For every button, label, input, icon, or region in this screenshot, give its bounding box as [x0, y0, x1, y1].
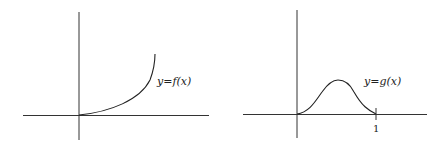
- f-curve: [79, 54, 155, 115]
- x-tick-label-1: 1: [373, 123, 379, 134]
- f-label: y=f(x): [156, 75, 191, 88]
- figure-canvas: y=f(x) 1 y=g(x): [0, 0, 441, 145]
- left-graph: y=f(x): [23, 12, 209, 140]
- g-label: y=g(x): [363, 75, 401, 88]
- right-graph: 1 y=g(x): [243, 10, 427, 138]
